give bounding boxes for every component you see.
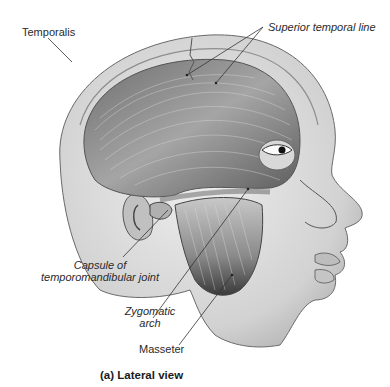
head-lateral-illustration bbox=[0, 0, 390, 387]
tmj-capsule bbox=[150, 202, 172, 219]
label-temporalis: Temporalis bbox=[22, 26, 75, 38]
label-zygomatic-arch: Zygomatic arch bbox=[110, 305, 190, 329]
label-masseter: Masseter bbox=[139, 343, 184, 355]
figure-caption: (a) Lateral view bbox=[100, 369, 183, 381]
anatomy-figure: Temporalis Superior temporal line Capsul… bbox=[0, 0, 390, 387]
label-superior-temporal-line: Superior temporal line bbox=[268, 21, 376, 33]
label-capsule-tmj: Capsule of temporomandibular joint bbox=[35, 259, 165, 283]
